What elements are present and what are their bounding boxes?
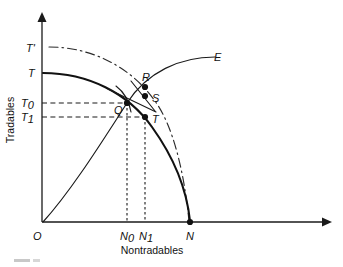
point-marker-Q [124, 100, 130, 106]
caption-smudge-mark-secondary [33, 259, 40, 262]
origin-label: O [33, 230, 42, 242]
x-tick-sub-N1: 1 [147, 232, 153, 244]
x-tick-label-N0: N [120, 230, 128, 242]
ppf-curve [43, 73, 190, 221]
svg-text:T': T' [26, 42, 36, 54]
y-tick-sub-T1: 1 [28, 113, 34, 125]
point-label-Q: Q [114, 104, 123, 116]
point-label-T: T [152, 113, 160, 125]
curve-end-label-E: E [214, 51, 222, 63]
figure-root: T' T T0 T1 N0 N1 N O Q R S [0, 0, 343, 267]
x-tick-label-N1: N [139, 230, 147, 242]
point-label-S: S [152, 92, 160, 104]
x-tick-sub-N0: 0 [128, 232, 135, 244]
svg-text:T0: T0 [21, 97, 35, 111]
point-marker-S [142, 93, 148, 99]
economics-diagram: T' T T0 T1 N0 N1 N O Q R S [0, 0, 343, 267]
svg-text:N0: N0 [120, 230, 135, 244]
shifted-ppf-curve [49, 47, 189, 221]
y-tick-sub-T0: 0 [28, 99, 35, 111]
point-labels-group: Q R S T E [114, 51, 222, 125]
y-tick-sup-T-prime: ' [33, 42, 36, 54]
point-marker-T [142, 114, 148, 120]
y-axis-arrow-icon [38, 12, 47, 22]
point-marker-R [142, 84, 148, 90]
point-markers-group [124, 84, 193, 225]
svg-text:N1: N1 [139, 230, 153, 244]
x-tick-labels-group: N0 N1 N [120, 230, 194, 244]
x-axis-arrow-icon [322, 218, 332, 227]
y-tick-labels-group: T' T T0 T1 [21, 42, 36, 125]
y-tick-label-T: T [28, 67, 36, 79]
x-axis-title: Nontradables [121, 244, 183, 256]
expansion-path-curve [43, 57, 215, 222]
point-marker-N [187, 219, 193, 225]
caption-smudge-mark [14, 259, 30, 262]
point-label-R: R [142, 71, 150, 83]
x-tick-label-N: N [186, 230, 194, 242]
svg-text:T1: T1 [21, 111, 34, 125]
y-axis-title: Tradables [4, 97, 16, 143]
